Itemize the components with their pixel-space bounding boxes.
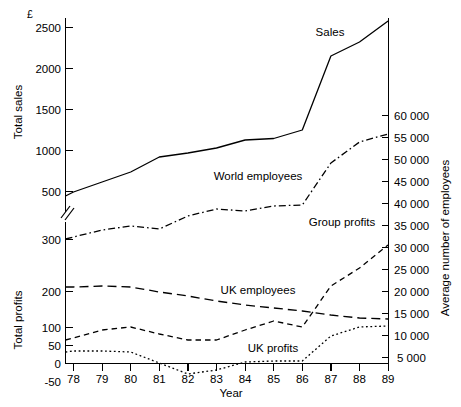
left-lower-axis-title: Total profits	[12, 290, 24, 349]
xtick-label-81: 81	[153, 373, 166, 385]
annotation-uk-employees: UK employees	[221, 284, 296, 296]
right-tick-label-20000: 20 000	[394, 286, 429, 298]
left-tick-label-50: 50	[48, 340, 61, 352]
annotation-sales: Sales	[316, 26, 345, 38]
left-tick-label-2000: 2000	[35, 63, 61, 75]
left-tick-label-500: 500	[42, 186, 61, 198]
left-tick-label-0: 0	[55, 358, 61, 370]
annotation-group-profits: Group profits	[309, 216, 376, 228]
left-lower-ticks: 300 200 100 50 0 -50	[42, 234, 73, 388]
right-tick-label-35000: 35 000	[394, 220, 429, 232]
right-tick-label-40000: 40 000	[394, 198, 429, 210]
left-tick-label-100: 100	[42, 322, 61, 334]
xtick-label-85: 85	[267, 373, 280, 385]
left-tick-label-1000: 1000	[35, 145, 61, 157]
xtick-label-84: 84	[239, 373, 252, 385]
left-tick-label-2500: 2500	[35, 22, 61, 34]
right-tick-label-25000: 25 000	[394, 264, 429, 276]
annotation-uk-profits: UK profits	[248, 342, 299, 354]
chart-container: 2500 2000 1500 1000 500 300 200 100 50 0…	[0, 0, 461, 407]
xtick-label-87: 87	[325, 373, 338, 385]
right-tick-label-10000: 10 000	[394, 330, 429, 342]
right-tick-label-60000: 60 000	[394, 110, 429, 122]
left-upper-axis-title: Total sales	[12, 85, 24, 140]
axis-frame	[61, 18, 389, 364]
right-tick-label-55000: 55 000	[394, 132, 429, 144]
xtick-label-82: 82	[182, 373, 195, 385]
right-axis-title: Average number of employees	[439, 160, 451, 317]
series-line-uk-profits	[66, 326, 389, 374]
right-tick-label-5000: 5 000	[397, 352, 426, 364]
left-tick-label-1500: 1500	[35, 104, 61, 116]
left-upper-ticks: 2500 2000 1500 1000 500	[35, 22, 72, 198]
xtick-label-86: 86	[296, 373, 309, 385]
xtick-label-89: 89	[382, 373, 395, 385]
right-tick-label-50000: 50 000	[394, 154, 429, 166]
x-axis-title: Year	[219, 387, 242, 399]
line-chart: 2500 2000 1500 1000 500 300 200 100 50 0…	[0, 0, 461, 407]
right-tick-label-45000: 45 000	[394, 176, 429, 188]
right-tick-label-15000: 15 000	[394, 308, 429, 320]
axis-break-icon	[61, 206, 74, 220]
bottom-axis-ticks: 78 79 80 81 82 83 84 85 86 87 88 89	[67, 364, 394, 386]
xtick-label-88: 88	[353, 373, 366, 385]
xtick-label-79: 79	[96, 373, 109, 385]
annotation-world-employees: World employees	[214, 170, 303, 182]
left-tick-label-300: 300	[42, 234, 61, 246]
left-tick-label-minus50: -50	[44, 376, 61, 388]
xtick-label-80: 80	[124, 373, 137, 385]
currency-unit-label: £	[27, 8, 33, 20]
xtick-label-78: 78	[67, 373, 80, 385]
right-tick-label-30000: 30 000	[394, 242, 429, 254]
xtick-label-83: 83	[210, 373, 223, 385]
left-tick-label-200: 200	[42, 286, 61, 298]
